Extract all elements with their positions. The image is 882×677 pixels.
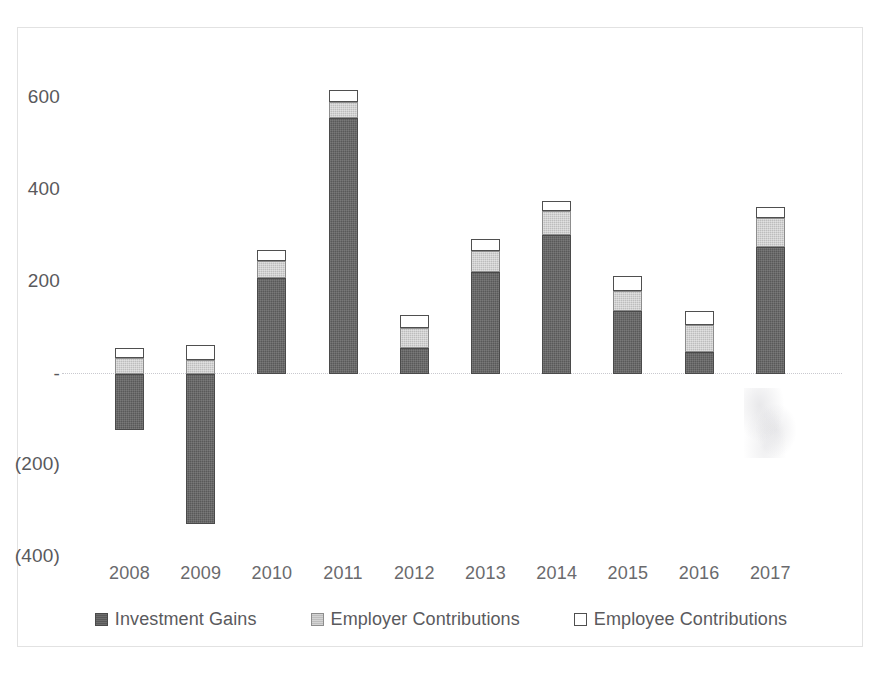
- legend-item-employee-contributions[interactable]: Employee Contributions: [574, 609, 787, 630]
- chart-legend: Investment Gains Employer Contributions …: [0, 609, 882, 630]
- legend-label-employer-contributions: Employer Contributions: [331, 609, 520, 630]
- legend-item-investment-gains[interactable]: Investment Gains: [95, 609, 257, 630]
- legend-swatch-icon-investment-gains: [95, 613, 108, 626]
- legend-label-investment-gains: Investment Gains: [115, 609, 257, 630]
- legend-swatch-icon-employer-contributions: [311, 613, 324, 626]
- legend-item-employer-contributions[interactable]: Employer Contributions: [311, 609, 520, 630]
- chart-frame: [17, 27, 863, 647]
- legend-swatch-icon-employee-contributions: [574, 613, 587, 626]
- legend-label-employee-contributions: Employee Contributions: [594, 609, 787, 630]
